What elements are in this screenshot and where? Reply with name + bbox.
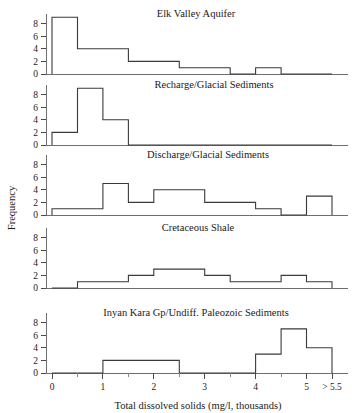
x-axis: 012345> 5.5Total dissolved solids (mg/l,… — [50, 373, 342, 412]
y-tick-label: 2 — [33, 57, 38, 67]
x-tick-label: > 5.5 — [322, 382, 342, 392]
y-tick-label: 6 — [33, 103, 38, 113]
y-tick-label: 4 — [33, 44, 38, 54]
panel-2: 02468Recharge/Glacial Sediments — [33, 79, 348, 151]
y-tick-label: 0 — [33, 140, 38, 150]
y-tick-label: 6 — [33, 246, 38, 256]
y-tick-label: 0 — [33, 69, 38, 79]
y-tick-label: 4 — [33, 115, 38, 125]
y-tick-label: 2 — [33, 271, 38, 281]
histogram-outline — [52, 269, 332, 288]
y-tick-label: 2 — [33, 198, 38, 208]
histogram-outline — [52, 17, 332, 74]
y-tick-label: 8 — [33, 90, 38, 100]
y-tick-label: 8 — [33, 233, 38, 243]
histogram-figure: 02468Elk Valley Aquifer02468Recharge/Gla… — [0, 0, 352, 413]
histogram-outline — [52, 88, 332, 145]
x-tick-label: 4 — [253, 382, 258, 392]
y-tick-label: 6 — [33, 173, 38, 183]
panel-3: 02468Discharge/Glacial Sediments — [33, 149, 348, 221]
panel-5: 02468Inyan Kara Gp/Undiff. Paleozoic Sed… — [33, 307, 348, 379]
panel-title: Cretaceous Shale — [162, 222, 235, 233]
y-tick-label: 2 — [33, 356, 38, 366]
panel-title: Elk Valley Aquifer — [157, 8, 236, 19]
panel-title: Recharge/Glacial Sediments — [154, 79, 273, 90]
x-tick-label: 5 — [304, 382, 309, 392]
panel-title: Inyan Kara Gp/Undiff. Paleozoic Sediment… — [103, 307, 289, 318]
x-tick-label: 0 — [50, 382, 55, 392]
y-tick-label: 8 — [33, 160, 38, 170]
x-tick-label: 1 — [101, 382, 106, 392]
x-tick-label: 2 — [151, 382, 156, 392]
y-tick-label: 0 — [33, 368, 38, 378]
panel-title: Discharge/Glacial Sediments — [147, 149, 269, 160]
panel-1: 02468Elk Valley Aquifer — [33, 8, 348, 80]
histogram-outline — [52, 329, 332, 373]
y-tick-label: 8 — [33, 19, 38, 29]
histogram-outline — [52, 184, 332, 216]
y-tick-label: 4 — [33, 343, 38, 353]
y-tick-label: 0 — [33, 283, 38, 293]
y-tick-label: 4 — [33, 185, 38, 195]
y-tick-label: 6 — [33, 331, 38, 341]
panel-4: 02468Cretaceous Shale — [33, 222, 348, 294]
y-tick-label: 6 — [33, 32, 38, 42]
y-tick-label: 8 — [33, 318, 38, 328]
y-tick-label: 0 — [33, 210, 38, 220]
x-axis-title: Total dissolved solids (mg/l, thousands) — [115, 400, 282, 412]
x-tick-label: 3 — [202, 382, 207, 392]
y-tick-label: 2 — [33, 128, 38, 138]
y-tick-label: 4 — [33, 258, 38, 268]
multi-panel-histogram: 02468Elk Valley Aquifer02468Recharge/Gla… — [0, 0, 352, 413]
y-axis-title: Frequency — [6, 185, 17, 230]
